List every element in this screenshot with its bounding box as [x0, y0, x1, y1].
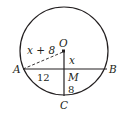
label-b: B [108, 63, 117, 75]
label-om-length: x [69, 54, 75, 66]
label-mc-length: 8 [68, 84, 74, 95]
label-a: A [12, 63, 21, 75]
circle-diagram: O A B C M x + 8 x 12 8 [0, 0, 117, 122]
label-am-length: 12 [37, 72, 50, 83]
label-c: C [60, 99, 68, 111]
label-o: O [59, 37, 68, 49]
center-point-o [62, 50, 65, 53]
label-oa-length: x + 8 [27, 44, 55, 56]
label-m: M [67, 71, 79, 83]
